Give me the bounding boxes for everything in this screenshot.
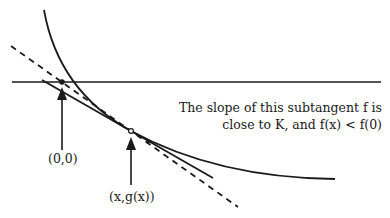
caption-line-1: The slope of this subtangent f is <box>179 99 382 116</box>
diagram-canvas: (0,0) (x,g(x)) The slope of this subtang… <box>0 0 390 218</box>
caption-line-2: close to K, and f(x) < f(0) <box>179 116 382 133</box>
origin-label: (0,0) <box>48 153 78 166</box>
curve <box>44 10 335 179</box>
tangent-point-arrow <box>126 137 136 185</box>
origin-arrow <box>57 87 67 150</box>
caption: The slope of this subtangent f is close … <box>179 99 382 133</box>
origin-dot <box>59 79 65 85</box>
tangent-point-label: (x,g(x)) <box>109 191 155 204</box>
secondary-dot <box>146 140 150 144</box>
tangent-point-dot <box>129 129 134 134</box>
